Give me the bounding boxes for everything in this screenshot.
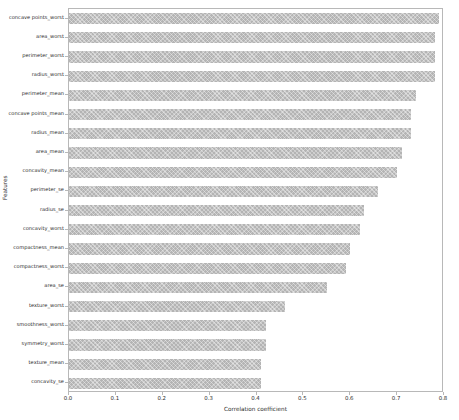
y-tick-mark — [65, 114, 68, 115]
x-tick-mark — [302, 392, 303, 395]
y-tick-mark — [65, 363, 68, 364]
y-tick-mark — [65, 152, 68, 153]
bar[interactable] — [69, 167, 397, 178]
y-tick-label: area_mean — [0, 149, 64, 154]
bar[interactable] — [69, 109, 411, 120]
bar[interactable] — [69, 205, 364, 216]
y-tick-mark — [65, 75, 68, 76]
y-tick-label: perimeter_mean — [0, 91, 64, 96]
y-tick-label: concave points_worst — [0, 15, 64, 20]
y-tick-label: concavity_se — [0, 379, 64, 384]
y-tick-mark — [65, 229, 68, 230]
bar-row — [69, 378, 442, 389]
bar[interactable] — [69, 186, 378, 197]
y-tick-mark — [65, 133, 68, 134]
y-tick-mark — [65, 18, 68, 19]
bar[interactable] — [69, 263, 346, 274]
bar[interactable] — [69, 147, 402, 158]
y-tick-mark — [65, 267, 68, 268]
y-tick-label: concavity_mean — [0, 168, 64, 173]
x-tick-label: 0.4 — [236, 396, 276, 401]
x-tick-label: 0.3 — [189, 396, 229, 401]
y-tick-mark — [65, 56, 68, 57]
bar-row — [69, 90, 442, 101]
x-tick-mark — [209, 392, 210, 395]
x-tick-mark — [162, 392, 163, 395]
bar-row — [69, 109, 442, 120]
bar[interactable] — [69, 224, 360, 235]
bar-row — [69, 263, 442, 274]
bar-row — [69, 186, 442, 197]
bar[interactable] — [69, 32, 435, 43]
plot-area — [68, 8, 443, 392]
y-tick-mark — [65, 248, 68, 249]
bar[interactable] — [69, 282, 327, 293]
bar-row — [69, 359, 442, 370]
y-tick-label: perimeter_worst — [0, 53, 64, 58]
y-tick-label: texture_mean — [0, 360, 64, 365]
bar[interactable] — [69, 339, 266, 350]
bar[interactable] — [69, 90, 416, 101]
y-tick-mark — [65, 190, 68, 191]
bar-row — [69, 339, 442, 350]
y-tick-label: smoothness_worst — [0, 322, 64, 327]
bar-row — [69, 71, 442, 82]
y-tick-mark — [65, 210, 68, 211]
bar-row — [69, 205, 442, 216]
x-tick-mark — [256, 392, 257, 395]
x-tick-mark — [443, 392, 444, 395]
bar-row — [69, 51, 442, 62]
y-tick-label: area_se — [0, 283, 64, 288]
bar-row — [69, 320, 442, 331]
y-tick-label: compactness_mean — [0, 245, 64, 250]
bar-row — [69, 301, 442, 312]
y-tick-label: radius_se — [0, 207, 64, 212]
bar-row — [69, 147, 442, 158]
y-tick-label: concave points_mean — [0, 111, 64, 116]
x-tick-label: 0.7 — [376, 396, 416, 401]
y-tick-mark — [65, 94, 68, 95]
bar-row — [69, 243, 442, 254]
bar[interactable] — [69, 301, 285, 312]
y-tick-label: radius_mean — [0, 130, 64, 135]
bar[interactable] — [69, 71, 435, 82]
y-tick-mark — [65, 344, 68, 345]
x-tick-label: 0.0 — [48, 396, 88, 401]
x-tick-label: 0.8 — [423, 396, 459, 401]
bar[interactable] — [69, 128, 411, 139]
y-tick-label: compactness_worst — [0, 264, 64, 269]
y-tick-mark — [65, 325, 68, 326]
x-tick-mark — [68, 392, 69, 395]
y-tick-mark — [65, 306, 68, 307]
x-tick-label: 0.5 — [282, 396, 322, 401]
bar[interactable] — [69, 359, 261, 370]
x-tick-mark — [115, 392, 116, 395]
bar-row — [69, 128, 442, 139]
y-tick-mark — [65, 171, 68, 172]
y-tick-label: perimeter_se — [0, 187, 64, 192]
bar-row — [69, 167, 442, 178]
x-tick-label: 0.2 — [142, 396, 182, 401]
y-tick-label: area_worst — [0, 34, 64, 39]
y-tick-label: texture_worst — [0, 303, 64, 308]
bar[interactable] — [69, 320, 266, 331]
bar[interactable] — [69, 13, 439, 24]
y-tick-label: symmetry_worst — [0, 341, 64, 346]
y-tick-mark — [65, 37, 68, 38]
bar-row — [69, 32, 442, 43]
bar-row — [69, 224, 442, 235]
bar[interactable] — [69, 51, 435, 62]
x-tick-mark — [396, 392, 397, 395]
y-tick-label: concavity_worst — [0, 226, 64, 231]
y-tick-mark — [65, 382, 68, 383]
correlation-bar-chart-figure: Features Correlation coefficient concave… — [0, 0, 459, 420]
bar-row — [69, 282, 442, 293]
bar[interactable] — [69, 378, 261, 389]
x-tick-label: 0.1 — [95, 396, 135, 401]
bar[interactable] — [69, 243, 350, 254]
y-tick-label: radius_worst — [0, 72, 64, 77]
x-axis-label: Correlation coefficient — [68, 406, 443, 412]
x-tick-label: 0.6 — [329, 396, 369, 401]
y-tick-mark — [65, 286, 68, 287]
bar-row — [69, 13, 442, 24]
